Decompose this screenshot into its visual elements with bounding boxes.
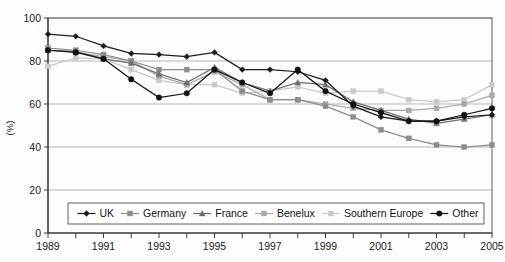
- data-point-southern-europe-1990: [73, 55, 78, 60]
- x-tick-label-2005: 2005: [480, 240, 504, 252]
- data-point-germany-1996: [240, 89, 245, 94]
- y-tick-label-40: 40: [29, 141, 41, 153]
- data-point-germany-2004: [462, 145, 467, 150]
- data-point-other-1990: [73, 50, 79, 56]
- data-point-other-2000: [350, 101, 356, 107]
- data-point-germany-2003: [434, 142, 439, 147]
- data-point-germany-2005: [490, 142, 495, 147]
- legend-label-germany: Germany: [143, 207, 187, 219]
- data-point-germany-1998: [295, 97, 300, 102]
- legend-marker-germany: [128, 211, 133, 216]
- data-point-benelux-2005: [490, 93, 495, 98]
- y-tick-label-20: 20: [29, 184, 41, 196]
- data-point-other-1991: [101, 56, 107, 62]
- legend-marker-southern-europe: [328, 211, 333, 216]
- legend-marker-other: [436, 211, 442, 217]
- data-point-other-1996: [239, 80, 245, 86]
- data-point-southern-europe-1989: [46, 64, 51, 69]
- x-tick-label-2001: 2001: [369, 240, 393, 252]
- y-tick-label-100: 100: [23, 12, 41, 24]
- x-tick-label-1993: 1993: [147, 240, 171, 252]
- data-point-southern-europe-2005: [490, 82, 495, 87]
- legend-label-france: France: [215, 207, 248, 219]
- x-tick-label-1989: 1989: [36, 240, 60, 252]
- data-point-southern-europe-1992: [129, 67, 134, 72]
- data-point-southern-europe-2001: [379, 89, 384, 94]
- data-point-germany-1997: [268, 97, 273, 102]
- data-point-other-1989: [45, 47, 51, 53]
- y-tick-label-60: 60: [29, 98, 41, 110]
- x-tick-label-2003: 2003: [425, 240, 449, 252]
- data-point-southern-europe-1995: [212, 82, 217, 87]
- data-point-benelux-2003: [434, 106, 439, 111]
- data-point-other-1992: [128, 76, 134, 82]
- data-point-other-1997: [267, 90, 273, 96]
- data-point-southern-europe-2003: [434, 99, 439, 104]
- x-tick-label-1995: 1995: [203, 240, 227, 252]
- data-point-germany-1994: [184, 67, 189, 72]
- legend-label-southern-europe: Southern Europe: [344, 207, 424, 219]
- data-point-other-2001: [378, 110, 384, 116]
- y-tick-label-80: 80: [29, 55, 41, 67]
- data-point-germany-1999: [323, 104, 328, 109]
- data-point-southern-europe-2000: [351, 89, 356, 94]
- data-point-other-2002: [406, 118, 412, 124]
- data-point-other-1995: [212, 67, 218, 73]
- x-axis-tick-labels: 198919911993199519971999200120032005: [36, 240, 504, 252]
- data-point-other-1999: [323, 88, 329, 94]
- x-tick-label-1997: 1997: [258, 240, 282, 252]
- legend-marker-benelux: [261, 211, 266, 216]
- legend-label-uk: UK: [99, 207, 114, 219]
- x-tick-label-1999: 1999: [314, 240, 338, 252]
- data-point-other-1998: [295, 67, 301, 73]
- data-point-other-1994: [184, 90, 190, 96]
- data-point-other-2005: [489, 106, 495, 112]
- data-point-germany-2000: [351, 114, 356, 119]
- chart-container: 020406080100 198919911993199519971999200…: [0, 0, 505, 262]
- data-point-benelux-2004: [462, 102, 467, 107]
- legend-label-other: Other: [452, 207, 479, 219]
- data-point-benelux-2002: [406, 108, 411, 113]
- data-point-other-2003: [434, 118, 440, 124]
- data-point-other-1993: [156, 95, 162, 101]
- data-point-other-2004: [461, 112, 467, 118]
- y-axis-title: (%): [4, 121, 15, 136]
- line-chart: 020406080100 198919911993199519971999200…: [0, 0, 505, 262]
- data-point-germany-2001: [379, 127, 384, 132]
- data-point-southern-europe-2002: [406, 97, 411, 102]
- data-point-germany-2002: [406, 136, 411, 141]
- chart-legend: UKGermanyFranceBeneluxSouthern EuropeOth…: [68, 203, 484, 224]
- x-tick-label-1991: 1991: [92, 240, 116, 252]
- y-tick-label-0: 0: [35, 227, 41, 239]
- legend-label-benelux: Benelux: [277, 207, 316, 219]
